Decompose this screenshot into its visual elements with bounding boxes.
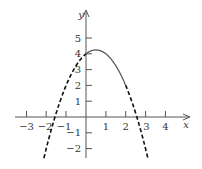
y-tick-label: 2 xyxy=(75,80,81,91)
x-tick-label: 2 xyxy=(123,121,129,132)
x-tick-label: −2 xyxy=(38,121,53,132)
y-axis-label: y xyxy=(77,9,84,20)
y-tick-label: 4 xyxy=(75,48,81,59)
y-tick-label: −2 xyxy=(66,143,81,154)
x-tick-label: −3 xyxy=(19,121,34,132)
y-ticks xyxy=(86,38,92,149)
y-tick-label: 1 xyxy=(75,96,81,107)
axes xyxy=(15,12,188,158)
y-tick-label: −1 xyxy=(66,127,81,138)
x-axis-label: x xyxy=(183,119,189,130)
solid-curve xyxy=(86,50,126,86)
x-ticks xyxy=(27,111,166,117)
x-tick-label: 1 xyxy=(103,121,109,132)
y-tick-label: 5 xyxy=(75,33,81,44)
x-tick-label: 3 xyxy=(143,121,149,132)
parabola-chart: −3 −2 −1 1 2 3 4 x 5 4 3 2 1 −1 −2 y xyxy=(0,0,202,169)
x-tick-label: 4 xyxy=(162,121,168,132)
